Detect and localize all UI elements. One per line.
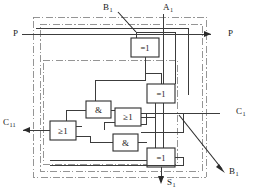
- gate-xor1-label: =1: [140, 43, 149, 53]
- c1-input-wires: [130, 113, 220, 132]
- gate-and2-group: &: [113, 134, 147, 151]
- circuit-diagram-canvas: =1 =1 & ≥1: [0, 0, 257, 196]
- port-label-p-in: P: [13, 29, 18, 38]
- wire-or1-out: [104, 122, 115, 130]
- port-label-a1-in: A1: [163, 3, 173, 12]
- port-label-c1-in-text: C: [236, 106, 242, 116]
- port-label-c1-in-sub: 1: [243, 110, 246, 117]
- port-label-s1-out-text: S: [167, 177, 172, 187]
- arrow-left-icon-c11-out: [23, 127, 30, 133]
- port-label-b1-ref-text: B: [229, 166, 235, 176]
- gate-and2-label: &: [122, 138, 129, 148]
- boundary-group: [33, 17, 206, 177]
- port-label-s1-out-sub: 1: [173, 181, 176, 188]
- gate-or1-label: ≥1: [123, 112, 132, 122]
- gate-xor2-label: =1: [156, 89, 165, 99]
- port-label-b1-in: B1: [103, 3, 113, 12]
- gate-xor3-label: =1: [156, 153, 165, 163]
- wire-or2-in-bottom: [76, 136, 113, 142]
- wire-and1-in-left: [66, 110, 86, 121]
- port-label-a1-in-text: A: [163, 2, 170, 12]
- p-bus-wires: [22, 28, 211, 95]
- port-label-b1-ref: B1: [229, 167, 239, 176]
- port-label-c11-out: C11: [3, 118, 16, 127]
- gate-xor3-group: =1: [50, 148, 183, 184]
- leader-b1-top: [118, 12, 136, 32]
- circuit-schematic-svg: =1 =1 & ≥1: [0, 0, 257, 196]
- port-label-b1-ref-sub: 1: [236, 170, 239, 177]
- arrow-right-icon-p-out: [204, 31, 211, 37]
- arrow-diagonal-icon-b1-ref: [216, 164, 225, 173]
- gate-xor2-group: =1: [141, 73, 175, 148]
- outer-boundary: [33, 17, 206, 177]
- port-label-p-out-text: P: [228, 28, 233, 38]
- port-label-b1-in-sub: 1: [110, 6, 113, 13]
- wire-xor1-out: [145, 57, 161, 73]
- gate-or2-group: ≥1: [23, 121, 113, 142]
- port-label-b1-in-text: B: [103, 2, 109, 12]
- port-label-c11-out-text: C: [3, 117, 9, 127]
- gate-and1-label: &: [95, 105, 102, 115]
- port-label-a1-in-sub: 1: [170, 6, 173, 13]
- port-label-s1-out: S1: [167, 178, 176, 187]
- port-label-c1-in: C1: [236, 107, 246, 116]
- port-label-p-in-text: P: [13, 28, 18, 38]
- port-label-p-out: P: [228, 29, 233, 38]
- leader-b1-bottom: [179, 115, 222, 169]
- gate-and1-group: &: [66, 101, 115, 121]
- gate-or2-label: ≥1: [58, 126, 67, 136]
- arrow-down-icon-s1-out: [158, 176, 164, 184]
- wire-xor1-out-branch: [95, 73, 145, 101]
- port-label-c11-out-sub: 11: [10, 121, 16, 128]
